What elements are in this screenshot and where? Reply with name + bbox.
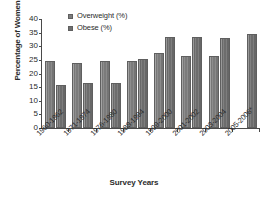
legend-swatch-icon: [68, 26, 73, 31]
y-axis-tick-label: 20: [29, 70, 38, 78]
y-axis-tick-mark: [39, 60, 42, 61]
legend-label: Obese (%): [77, 24, 112, 32]
y-axis-tick-mark: [39, 101, 42, 102]
x-axis-label-cell: 2001-2002: [177, 130, 204, 176]
y-axis-tick-label: 40: [29, 15, 38, 23]
bar-obese: [83, 83, 93, 128]
x-axis-label-cell: 1960-1962: [41, 130, 68, 176]
x-axis-label-cell: 1976-1980: [96, 130, 123, 176]
x-axis-tick-mark: [259, 128, 260, 132]
x-axis-label-cell: 1999-2000: [150, 130, 177, 176]
x-axis-label-cell: 1988-1994: [123, 130, 150, 176]
legend-entry: Overweight (%): [68, 12, 127, 20]
y-axis-tick-mark: [39, 33, 42, 34]
y-axis-tick-mark: [39, 114, 42, 115]
y-axis-tick-mark: [39, 46, 42, 47]
y-axis-tick-label: 15: [29, 83, 38, 91]
chart-legend: Overweight (%)Obese (%): [68, 12, 127, 36]
y-axis-tick-label: 30: [29, 42, 38, 50]
x-axis-title: Survey Years: [0, 178, 268, 187]
y-axis-tick-labels: 0510152025303540: [22, 14, 38, 129]
y-axis-title: Percentage of Women: [13, 0, 22, 96]
bar-obese: [111, 83, 121, 128]
y-axis-tick-label: 25: [29, 56, 38, 64]
bar-chart: Percentage of Women 0510152025303540 196…: [0, 0, 268, 198]
legend-swatch-icon: [68, 14, 73, 19]
y-axis-tick-label: 35: [29, 29, 38, 37]
y-axis-tick-label: 5: [34, 110, 38, 118]
legend-entry: Obese (%): [68, 24, 127, 32]
y-axis-tick-mark: [39, 19, 42, 20]
legend-label: Overweight (%): [77, 12, 127, 20]
x-axis-label-cell: 1971-1974: [68, 130, 95, 176]
y-axis-tick-label: 10: [29, 97, 38, 105]
x-axis-tick-labels: 1960-19621971-19741976-19801988-19941999…: [41, 130, 259, 176]
y-axis-tick-mark: [39, 74, 42, 75]
x-axis-label-cell: 2005-2006*: [232, 130, 259, 176]
y-axis-tick-mark: [39, 87, 42, 88]
